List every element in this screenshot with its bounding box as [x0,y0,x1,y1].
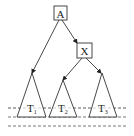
subtree-t2-subscript: 2 [65,109,68,115]
edge-x-t2 [63,58,82,80]
subtree-t1: T1 [17,73,46,117]
subtree-t2: T2 [49,80,77,117]
edge-x-t3 [86,58,101,73]
node-x-label: X [81,45,89,57]
edge-a-x [62,20,77,43]
subtree-t1-subscript: 1 [34,109,37,115]
edge-a-t1 [32,20,59,73]
subtree-t3-subscript: 3 [105,109,108,115]
node-a-label: A [57,8,65,20]
node-x: X [77,43,92,58]
tree-diagram: A X T1 T2 T3 [0,0,134,136]
node-a: A [54,6,67,20]
subtree-t3: T3 [89,73,117,117]
